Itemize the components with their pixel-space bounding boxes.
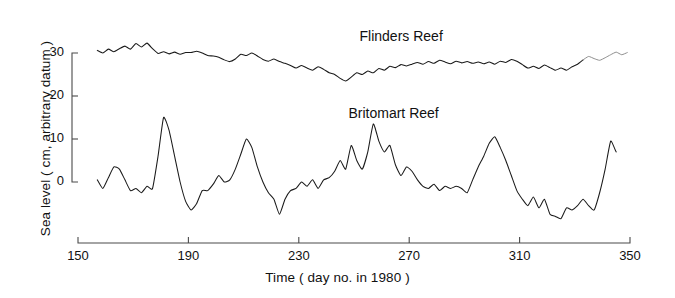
series-label-britomart-reef: Britomart Reef xyxy=(348,105,438,121)
x-tick-label: 310 xyxy=(490,248,550,263)
y-tick-label: 10 xyxy=(24,130,64,145)
y-tick-label: 30 xyxy=(24,44,64,59)
x-tick-label: 350 xyxy=(600,248,660,263)
sea-level-chart: Sea level ( cm, arbitrary datum ) Time (… xyxy=(0,0,675,298)
x-tick-label: 150 xyxy=(48,248,108,263)
series-label-flinders-reef: Flinders Reef xyxy=(360,28,443,44)
x-tick-label: 190 xyxy=(158,248,218,263)
y-tick-label: 0 xyxy=(24,173,64,188)
x-tick-label: 270 xyxy=(379,248,439,263)
x-tick-label: 230 xyxy=(269,248,329,263)
y-tick-label: 20 xyxy=(24,87,64,102)
